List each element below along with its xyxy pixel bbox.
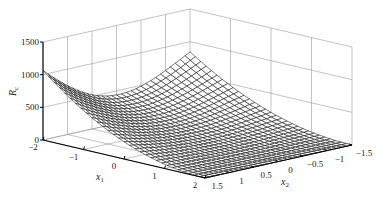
x1-axis-label: x1 [95, 171, 104, 184]
svg-text:−0.5: −0.5 [307, 159, 324, 169]
surface-plot: 050010001500−2−10121.510.50−0.5−1−1.5 Rc… [0, 0, 376, 197]
svg-text:1.5: 1.5 [211, 181, 223, 191]
surface-mesh [43, 52, 352, 178]
svg-text:−1: −1 [69, 152, 79, 162]
svg-text:−1.5: −1.5 [356, 148, 373, 158]
z-axis-label: Rc [7, 87, 20, 97]
svg-text:1: 1 [152, 171, 157, 181]
svg-text:500: 500 [26, 102, 40, 112]
svg-text:1000: 1000 [21, 70, 40, 80]
svg-text:0.5: 0.5 [260, 170, 272, 180]
svg-text:−2: −2 [28, 142, 38, 152]
svg-text:1500: 1500 [21, 37, 40, 47]
svg-text:2: 2 [193, 180, 198, 190]
svg-text:0: 0 [288, 165, 293, 175]
svg-text:−1: −1 [335, 154, 345, 164]
svg-text:1: 1 [239, 176, 244, 186]
x2-axis-label: x2 [280, 176, 289, 189]
svg-text:0: 0 [112, 161, 117, 171]
